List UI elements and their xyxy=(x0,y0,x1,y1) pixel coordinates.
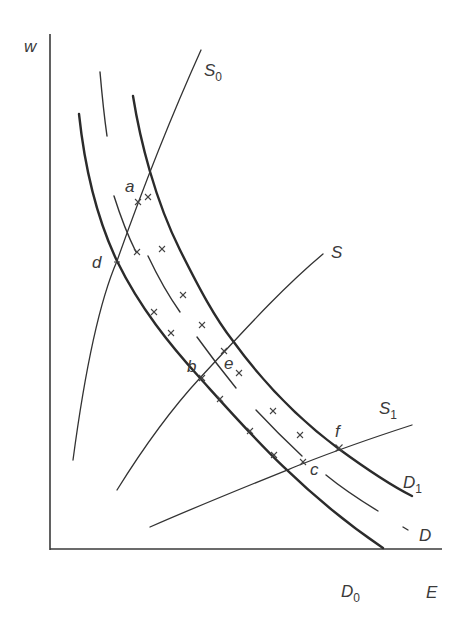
cross-marker-icon xyxy=(270,408,276,414)
cross-marker-icon xyxy=(297,432,303,438)
d-dash-segment xyxy=(100,72,107,136)
d-label: D xyxy=(419,526,431,545)
cross-marker-icon xyxy=(159,246,165,252)
labor-market-diagram: w E D0 D1 D S0 S xyxy=(0,0,467,621)
s1-label: S1 xyxy=(379,399,397,422)
d-dash-segment xyxy=(148,256,180,312)
cross-marker-icon xyxy=(236,370,242,376)
point-label-c: c xyxy=(310,460,319,479)
cross-marker-icon xyxy=(199,322,205,328)
d-dash-segment xyxy=(403,527,408,530)
s0-label: S0 xyxy=(204,61,222,84)
point-labels: a d b e f c xyxy=(92,177,342,479)
d-dash-segment xyxy=(114,196,136,252)
y-axis-label: w xyxy=(24,37,38,56)
point-label-e: e xyxy=(224,354,233,373)
point-label-d: d xyxy=(92,253,102,272)
axes: w E xyxy=(24,34,442,602)
point-label-b: b xyxy=(187,357,196,376)
cross-marker-icon xyxy=(168,330,174,336)
s-label: S xyxy=(331,243,343,262)
d-dash-segment xyxy=(326,475,378,511)
point-label-a: a xyxy=(125,177,134,196)
s-line xyxy=(117,254,323,490)
x-axis-label: E xyxy=(426,583,438,602)
d-dash-segment xyxy=(256,410,302,456)
cross-marker-icon xyxy=(134,249,140,255)
cross-marker-icon xyxy=(151,309,157,315)
cross-marker-icon xyxy=(180,292,186,298)
s1-line xyxy=(150,425,412,527)
cross-marker-icon xyxy=(145,194,151,200)
point-label-f: f xyxy=(335,422,342,441)
d0-label: D0 xyxy=(341,582,360,605)
d1-line xyxy=(133,96,412,496)
